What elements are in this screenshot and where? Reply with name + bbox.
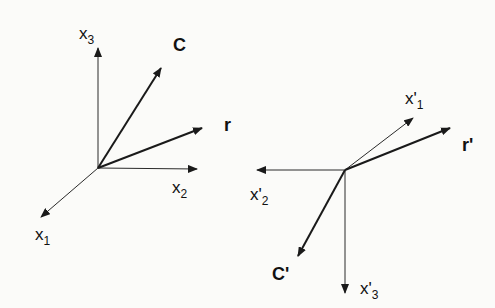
coordinate-diagram: x3 C r x2 x1 x'1 r' x'2 C' x'3	[0, 0, 495, 308]
right-frame: x'1 r' x'2 C' x'3	[250, 89, 473, 302]
vector-c-prime	[298, 170, 345, 256]
label-r: r	[224, 115, 231, 135]
label-x1: x1	[35, 225, 51, 248]
vector-r	[98, 128, 202, 168]
label-r-prime: r'	[462, 135, 473, 155]
label-x2-prime: x'2	[250, 185, 269, 208]
label-x3-prime: x'3	[360, 279, 379, 302]
vector-r-prime	[345, 128, 450, 170]
label-x2: x2	[172, 178, 188, 201]
axis-x2	[98, 168, 197, 169]
label-x1-prime: x'1	[405, 89, 424, 112]
left-frame: x3 C r x2 x1	[35, 24, 231, 248]
label-c-prime: C'	[272, 264, 289, 284]
axis-x1	[41, 168, 98, 217]
label-x3: x3	[79, 24, 95, 47]
axis-x1-prime	[345, 118, 413, 170]
label-c: C	[173, 35, 186, 55]
vector-c	[98, 68, 161, 168]
